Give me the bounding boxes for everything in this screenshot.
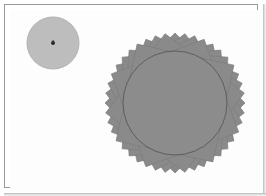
- figure-canvas: [5, 5, 261, 191]
- center-point-tail: [53, 40, 54, 43]
- figure-page: [0, 0, 266, 196]
- page-shadow-right: [263, 4, 266, 196]
- geometry-illustration: [5, 5, 261, 191]
- inscribed-disc: [123, 51, 227, 155]
- page-shadow-bottom: [4, 193, 266, 196]
